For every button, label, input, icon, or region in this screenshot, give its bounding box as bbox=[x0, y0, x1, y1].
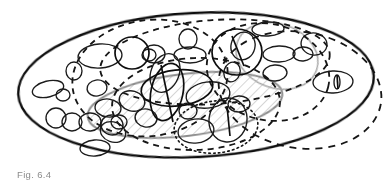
solid-circle-upper-left bbox=[115, 37, 149, 69]
small-ellipse-16 bbox=[262, 64, 287, 82]
solid-circle-upper-right bbox=[212, 29, 262, 75]
loop-tick-far-right bbox=[337, 75, 338, 89]
small-ellipse-28 bbox=[56, 89, 70, 101]
small-ellipse-14 bbox=[263, 45, 296, 62]
small-ellipse-11 bbox=[179, 29, 197, 49]
figure-caption: Fig. 6.4 bbox=[17, 170, 51, 180]
figure-container: Fig. 6.4 bbox=[0, 0, 390, 191]
hatched-gray-ellipse-group bbox=[70, 60, 310, 155]
figure-drawing-canvas bbox=[0, 0, 390, 191]
